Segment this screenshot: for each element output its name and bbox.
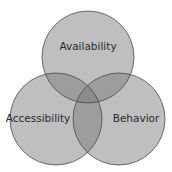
availability-label: Availability	[59, 40, 116, 52]
behavior-label: Behavior	[113, 112, 160, 124]
venn-diagram: Availability Accessibility Behavior	[0, 0, 172, 172]
accessibility-label: Accessibility	[6, 112, 71, 124]
circle-fills	[10, 11, 165, 165]
